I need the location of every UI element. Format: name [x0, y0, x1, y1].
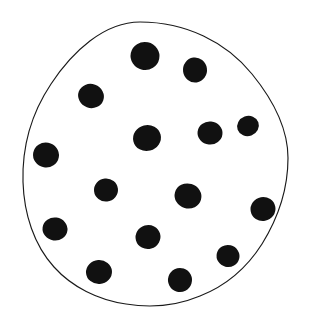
figure-canvas: [0, 0, 311, 332]
blob-dots-figure: [0, 0, 311, 332]
